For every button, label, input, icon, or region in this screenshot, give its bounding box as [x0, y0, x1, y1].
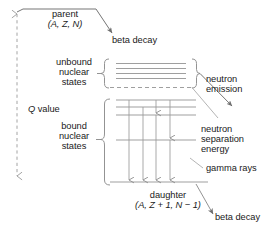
- neutron-emission-line2: emission: [206, 84, 268, 94]
- daughter-label: daughter (A, Z + 1, N − 1): [120, 190, 216, 210]
- neutron-emission-line1: neutron: [206, 74, 268, 84]
- neutron-separation-line2: separation: [201, 134, 267, 144]
- gamma-rays-leader: [190, 158, 203, 168]
- q-value-label: Q value: [28, 104, 60, 114]
- parent-label: parent (A, Z, N): [32, 9, 98, 29]
- beta-decay-bottom-label: beta decay: [215, 212, 260, 222]
- unbound-left-brace: [101, 59, 109, 88]
- unbound-right-brace: [192, 59, 200, 88]
- nuclear-decay-diagram: parent (A, Z, N) beta decay unbound nucl…: [0, 0, 275, 233]
- unbound-label-line1: unbound: [46, 57, 102, 67]
- neutron-separation-line3: energy: [201, 144, 267, 154]
- bound-label-line3: states: [46, 141, 102, 151]
- gamma-rays-label: gamma rays: [206, 163, 257, 173]
- parent-label-line2: (A, Z, N): [32, 19, 98, 29]
- daughter-label-line1: daughter: [120, 190, 216, 200]
- unbound-label-line3: states: [46, 77, 102, 87]
- daughter-label-line2: (A, Z + 1, N − 1): [120, 200, 216, 210]
- unbound-states-label: unbound nuclear states: [46, 57, 102, 88]
- parent-label-line1: parent: [32, 9, 98, 19]
- bound-states-group: [96, 99, 208, 185]
- beta-decay-top-label: beta decay: [112, 35, 157, 45]
- unbound-label-line2: nuclear: [46, 67, 102, 77]
- bound-states-label: bound nuclear states: [46, 121, 102, 152]
- neutron-separation-line1: neutron: [201, 124, 267, 134]
- neutron-emission-label: neutron emission: [206, 74, 268, 94]
- bound-label-line2: nuclear: [46, 131, 102, 141]
- neutron-separation-energy-label: neutron separation energy: [201, 124, 267, 155]
- unbound-states-group: [97, 59, 200, 88]
- bound-label-line1: bound: [46, 121, 102, 131]
- q-value-text: value: [35, 104, 60, 114]
